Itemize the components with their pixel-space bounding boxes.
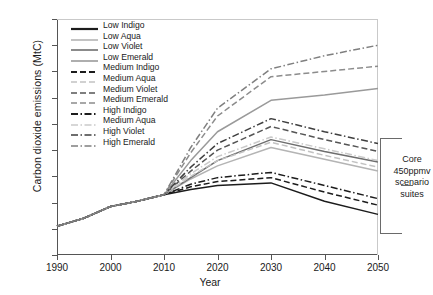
legend-swatch-icon xyxy=(71,137,98,147)
series-line-5 xyxy=(57,142,378,226)
legend-item[interactable]: Low Emerald xyxy=(71,52,199,63)
x-axis-tick xyxy=(164,255,165,260)
x-axis-tick-label: 2020 xyxy=(196,262,240,273)
series-line-0 xyxy=(57,183,378,226)
legend-swatch-icon xyxy=(71,20,98,30)
legend-label: Low Emerald xyxy=(103,53,153,62)
legend-item[interactable]: High Emerald xyxy=(71,137,199,148)
legend-label: Low Indigo xyxy=(103,21,145,30)
x-axis-label: Year xyxy=(40,276,380,288)
legend-item[interactable]: Low Violet xyxy=(71,41,199,52)
legend-item[interactable]: Medium Emerald xyxy=(71,94,199,105)
chart-figure: Carbon dioxide emissions (MtC) Year 0204… xyxy=(0,0,433,295)
legend-swatch-icon xyxy=(71,116,98,126)
legend-item[interactable]: Medium Violet xyxy=(71,84,199,95)
series-line-2 xyxy=(57,140,378,227)
legend-swatch-icon xyxy=(71,105,98,115)
legend-swatch-icon xyxy=(71,73,98,83)
legend-swatch-icon xyxy=(71,126,98,136)
x-axis-tick xyxy=(378,255,379,260)
legend-label: Medium Violet xyxy=(103,85,157,94)
bracket-annotation-label: Core 450ppmv scenario suites xyxy=(390,154,433,200)
legend-item[interactable]: Low Indigo xyxy=(71,20,199,31)
series-line-8 xyxy=(57,172,378,226)
legend-swatch-icon xyxy=(71,94,98,104)
legend-label: High Emerald xyxy=(103,138,155,147)
legend-item[interactable]: High Violet xyxy=(71,126,199,137)
legend-label: Low Aqua xyxy=(103,32,141,41)
legend-item[interactable]: Medium Indigo xyxy=(71,62,199,73)
x-axis-tick xyxy=(218,255,219,260)
x-axis-tick-label: 2050 xyxy=(356,262,400,273)
legend-label: Low Violet xyxy=(103,42,143,51)
legend-label: High Indigo xyxy=(103,106,146,115)
x-axis-tick xyxy=(325,255,326,260)
legend-label: High Violet xyxy=(103,127,144,136)
legend-swatch-icon xyxy=(71,52,98,62)
legend-item[interactable]: Medium Aqua xyxy=(71,115,199,126)
x-axis-tick xyxy=(111,255,112,260)
legend-swatch-icon xyxy=(71,63,98,73)
x-axis-tick-label: 2030 xyxy=(249,262,293,273)
series-line-1 xyxy=(57,147,378,226)
legend-item[interactable]: Low Aqua xyxy=(71,31,199,42)
x-axis-tick-label: 2040 xyxy=(303,262,347,273)
legend: Low IndigoLow AquaLow VioletLow EmeraldM… xyxy=(71,20,199,147)
legend-label: Medium Aqua xyxy=(103,116,156,125)
x-axis-tick-label: 2000 xyxy=(89,262,133,273)
legend-label: Medium Aqua xyxy=(103,74,156,83)
legend-swatch-icon xyxy=(71,41,98,51)
x-axis-tick xyxy=(271,255,272,260)
y-axis-label: Carbon dioxide emissions (MtC) xyxy=(31,1,43,231)
legend-swatch-icon xyxy=(71,31,98,41)
x-axis-tick-label: 2010 xyxy=(142,262,186,273)
legend-label: Medium Indigo xyxy=(103,63,159,72)
legend-swatch-icon xyxy=(71,84,98,94)
x-axis-tick-label: 1990 xyxy=(35,262,79,273)
legend-item[interactable]: Medium Aqua xyxy=(71,73,199,84)
legend-item[interactable]: High Indigo xyxy=(71,105,199,116)
x-axis-tick xyxy=(57,255,58,260)
legend-label: Medium Emerald xyxy=(103,95,168,104)
